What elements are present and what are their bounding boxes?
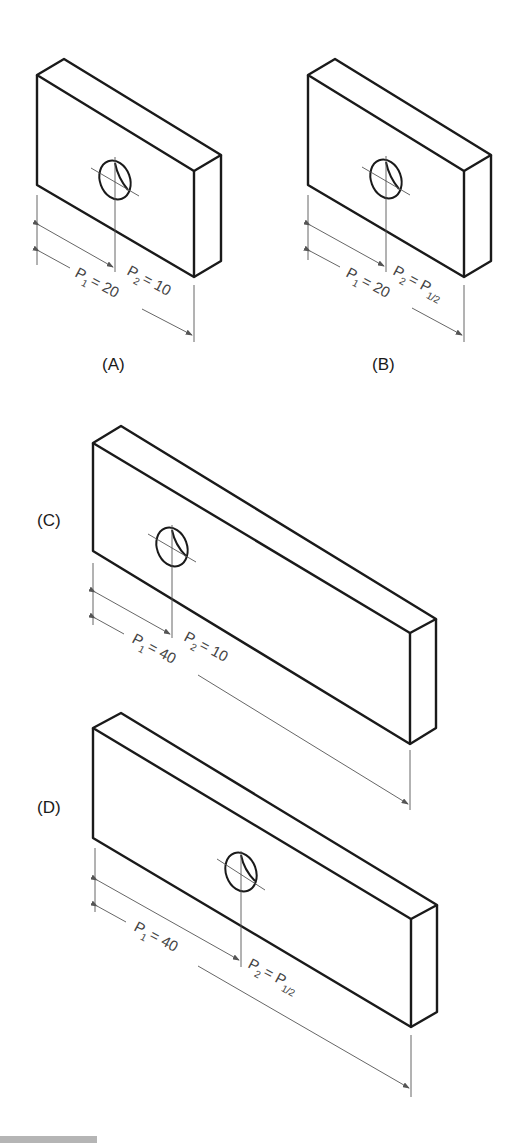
diagram-canvas: P1= 20 P2= 10 (A) P1= 20 P2= P1/2 (B) [0,0,518,1143]
p2-label: P2= 10 [123,262,175,303]
p2-label: P2= P1/2 [244,955,302,999]
figure-label-a: (A) [102,355,125,374]
p1-label: P1= 20 [342,264,394,305]
footer-bar [0,1136,97,1143]
figure-b: P1= 20 P2= P1/2 (B) [308,59,491,374]
p2-label: P2= 10 [180,628,232,669]
p1-label: P1= 40 [128,630,180,671]
figure-label-b: (B) [372,355,395,374]
figure-c: P1= 40 P2= 10 (C) [37,426,436,810]
figure-d: P1= 40 P2= P1/2 (D) [37,713,437,1097]
p1-label: P1= 40 [130,918,182,959]
p2-label: P2= P1/2 [389,262,447,306]
p1-label: P1= 20 [71,264,123,305]
figure-label-d: (D) [37,798,61,817]
figure-a: P1= 20 P2= 10 (A) [37,59,221,374]
figure-label-c: (C) [37,511,61,530]
